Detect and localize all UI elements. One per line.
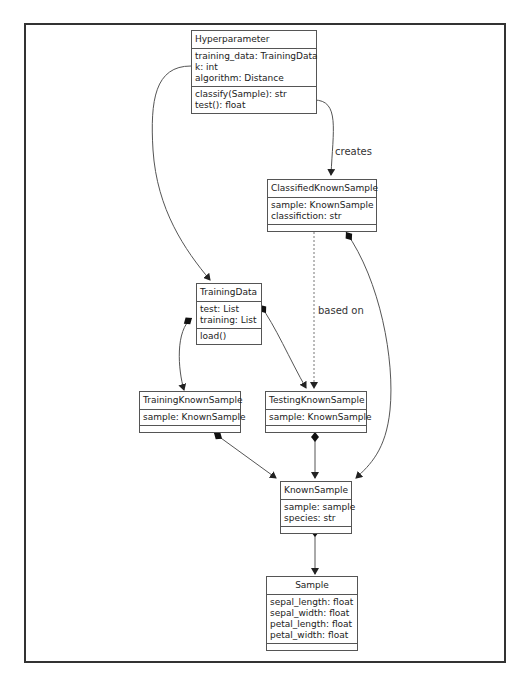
class-training-data[interactable]: TrainingData test: List training: List l… <box>196 283 262 345</box>
attribute: training: List <box>200 315 258 326</box>
class-name: KnownSample <box>281 482 351 499</box>
class-sample[interactable]: Sample sepal_length: float sepal_width: … <box>266 576 358 651</box>
attributes-section: sample: KnownSample classifiction: str <box>268 197 376 224</box>
class-name: Hyperparameter <box>192 31 316 48</box>
class-name: TrainingKnownSample <box>140 392 240 409</box>
attribute: test: List <box>200 304 258 315</box>
edge-label-creates: creates <box>335 146 372 157</box>
methods-section: load() <box>197 328 261 344</box>
methods-section <box>268 224 376 231</box>
class-training-known-sample[interactable]: TrainingKnownSample sample: KnownSample <box>139 391 241 433</box>
attribute: classifiction: str <box>271 211 373 222</box>
edge-classified-knownsample <box>346 232 391 478</box>
methods-section <box>140 425 240 432</box>
attribute: species: str <box>284 513 348 524</box>
attributes-section: sepal_length: float sepal_width: float p… <box>267 594 357 643</box>
methods-section: classify(Sample): str test(): float <box>192 86 316 113</box>
class-testing-known-sample[interactable]: TestingKnownSample sample: KnownSample <box>265 391 367 433</box>
attributes-section: training_data: TrainingData k: int algor… <box>192 48 316 86</box>
edge-trainingdata-trainingknown <box>179 318 192 390</box>
attribute: sepal_length: float <box>270 597 354 608</box>
attribute: sample: KnownSample <box>269 412 363 423</box>
edge-trainingdata-testingknown <box>260 305 306 388</box>
attribute: petal_length: float <box>270 619 354 630</box>
edge-label-based-on: based on <box>318 305 364 316</box>
attribute: training_data: TrainingData <box>195 51 313 62</box>
attributes-section: sample: sample species: str <box>281 499 351 526</box>
method: test(): float <box>195 100 313 111</box>
attribute: k: int <box>195 62 313 73</box>
class-name: TestingKnownSample <box>266 392 366 409</box>
attribute: sample: sample <box>284 502 348 513</box>
class-classified-known-sample[interactable]: ClassifiedKnownSample sample: KnownSampl… <box>267 179 377 232</box>
method: classify(Sample): str <box>195 89 313 100</box>
class-name: ClassifiedKnownSample <box>268 180 376 197</box>
attributes-section: test: List training: List <box>197 301 261 328</box>
attribute: sample: KnownSample <box>143 412 237 423</box>
class-hyperparameter[interactable]: Hyperparameter training_data: TrainingDa… <box>191 30 317 114</box>
attribute: algorithm: Distance <box>195 73 313 84</box>
methods-section <box>267 643 357 650</box>
methods-section <box>266 425 366 432</box>
methods-section <box>281 526 351 533</box>
edge-trainingknown-knownsample <box>214 433 276 478</box>
attribute: petal_width: float <box>270 630 354 641</box>
attributes-section: sample: KnownSample <box>266 409 366 425</box>
attribute: sepal_width: float <box>270 608 354 619</box>
attribute: sample: KnownSample <box>271 200 373 211</box>
attributes-section: sample: KnownSample <box>140 409 240 425</box>
class-name: TrainingData <box>197 284 261 301</box>
method: load() <box>200 331 258 342</box>
class-name: Sample <box>267 577 357 594</box>
class-known-sample[interactable]: KnownSample sample: sample species: str <box>280 481 352 534</box>
